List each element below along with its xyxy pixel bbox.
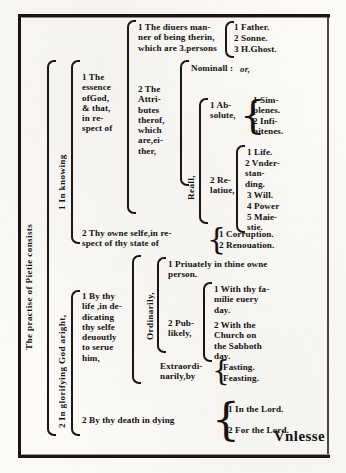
leaf-fasting: Fasting. [223, 362, 255, 372]
catchword: Vnlesse [274, 428, 325, 445]
node-by-death-label: 2 By thy death in dying [82, 415, 212, 425]
leaf-power: 4 Power [247, 201, 279, 211]
branch-glorifying-label: 2 In glorifying God aright, [57, 310, 67, 428]
node-ordinarily-brace [157, 257, 166, 353]
node-priuately-label: 1 Priuately in thine owne person. [168, 259, 328, 280]
branch-knowing-label: 1 In knowing [57, 110, 67, 210]
node-nominall-connector: or, [240, 64, 250, 74]
leaf-simplenes: 1 Sim- plenes. [253, 95, 301, 116]
node-reall-brace [199, 98, 208, 224]
node-essence-label: 1 The essence ofGod, & that, in re- spec… [82, 72, 132, 134]
leaf-life: 1 Life. [247, 147, 272, 157]
branch-knowing-brace [71, 60, 80, 244]
leaf-in-the-lord: 1 In the Lord. [228, 404, 283, 414]
node-persons-brace [225, 21, 234, 58]
node-persons-label: 1 The diuers man- ner of being therin, w… [138, 22, 228, 53]
border-rule-right [327, 16, 329, 454]
node-absolute-label: 1 Ab- solute, [210, 100, 240, 121]
node-attributes-label: 2 The Attri- butes therof, which are,ei-… [138, 84, 184, 156]
leaf-corruption: 1 Corruption. [219, 229, 274, 239]
branch-glorifying-brace [71, 290, 80, 436]
node-publikely-brace [203, 282, 212, 362]
border-rule-left [18, 14, 21, 458]
leaf-sonne: 2 Sonne. [234, 33, 268, 43]
leaf-feasting: Feasting. [223, 373, 259, 383]
node-ordinarily-label: Ordinarily, [145, 285, 155, 340]
leaf-familie-every-day: 1 With thy fa- milie euery day. [214, 284, 276, 315]
node-extraordinarily-label: Extraordi- narily,by [160, 361, 212, 382]
page-plate: The practise of Pietie consists 1 In kno… [0, 0, 346, 473]
border-rule-bottom [18, 455, 330, 458]
node-by-life-label: 1 By thy life ,in de- dicating thy selfe… [82, 291, 132, 363]
node-relatiue-brace [236, 145, 245, 233]
root-brace [47, 60, 56, 436]
node-by-life-brace [132, 255, 141, 384]
leaf-will: 3 Will. [247, 190, 273, 200]
node-publikely-label: 2 Pub- likely, [168, 318, 200, 339]
node-reall-label: Reall, [186, 160, 196, 200]
leaf-holy-ghost: 3 H.Ghost. [234, 44, 277, 54]
node-nominall-label: Nominall : [191, 63, 233, 73]
leaf-renouation: 2 Renouation. [219, 240, 274, 250]
node-essence-brace [127, 20, 136, 214]
leaf-father: 1 Father. [234, 22, 269, 32]
node-owne-selfe-label: 2 Thy owne selfe,in re- spect of thy sta… [82, 228, 212, 249]
root-title: The practise of Pietie consists [24, 200, 34, 350]
leaf-infinitenes: 2 Infi- nitenes. [253, 116, 301, 137]
leaf-vnderstanding: 2 Vnder- stan- ding. [245, 158, 297, 189]
border-rule-top [18, 14, 330, 17]
